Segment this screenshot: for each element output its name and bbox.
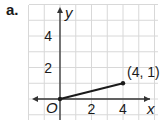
y-axis-arrow-up bbox=[57, 7, 63, 13]
y-tick-label: 4 bbox=[44, 28, 52, 44]
data-point bbox=[58, 97, 62, 101]
x-axis-label: x bbox=[146, 100, 155, 117]
y-axis-label: y bbox=[64, 4, 74, 21]
x-tick-label: 2 bbox=[88, 101, 96, 117]
data-marks: (4, 1) bbox=[58, 64, 160, 101]
data-point bbox=[121, 81, 125, 85]
coordinate-plane: xyO2424 (4, 1) bbox=[0, 0, 163, 120]
origin-label: O bbox=[46, 99, 58, 116]
x-tick-label: 4 bbox=[119, 101, 127, 117]
point-label: (4, 1) bbox=[127, 64, 160, 80]
y-tick-label: 2 bbox=[44, 60, 52, 76]
x-axis-arrow-left bbox=[32, 96, 38, 102]
